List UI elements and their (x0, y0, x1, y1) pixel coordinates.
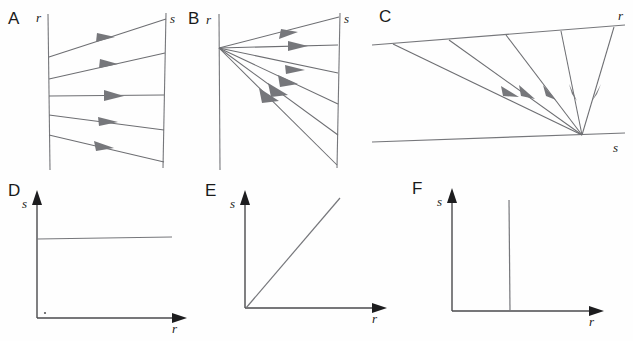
panel-e-letter: E (205, 181, 216, 200)
panel-a-letter: A (8, 9, 20, 28)
panel-b-ray-6 (219, 48, 337, 165)
panel-d-y-axis-arrowhead (32, 190, 42, 205)
panel-b-letter: B (188, 9, 199, 28)
panel-b: B r s (188, 9, 349, 170)
panel-f: F s r (412, 179, 604, 329)
panel-f-ylabel: s (437, 194, 442, 209)
panel-a-ray-4 (49, 115, 164, 130)
panel-c-ray-5 (582, 27, 614, 135)
panel-d-letter: D (8, 181, 20, 200)
panel-c-letter: C (379, 7, 391, 26)
panel-a-line-r (48, 14, 50, 170)
panel-e: E s r (205, 181, 387, 326)
panel-f-y-axis-arrowhead (447, 188, 457, 203)
panel-b-ray-1 (219, 17, 339, 48)
panel-a-ray-5 (49, 135, 164, 162)
panel-a-label-r: r (36, 10, 42, 25)
panel-b-line-s (337, 13, 340, 168)
panel-c-label-s: s (613, 140, 618, 155)
panel-c-ray-4 (561, 31, 582, 135)
scan-speck (44, 312, 46, 314)
panel-b-line-r (219, 14, 220, 170)
panel-a-line-s (163, 13, 166, 168)
panel-a: A r s (8, 9, 175, 170)
panel-c: C r s (372, 7, 625, 155)
panel-c-label-r: r (618, 8, 624, 23)
panel-c-line-s (372, 133, 625, 142)
panel-b-ray-5 (219, 48, 338, 135)
figure-container: A r s (0, 0, 633, 341)
panel-a-ray-1 (49, 19, 166, 57)
panel-e-ylabel: s (230, 196, 235, 211)
panel-a-ray-2 (49, 53, 165, 79)
panel-b-ray-2 (219, 41, 338, 51)
panel-c-ray-2 (449, 40, 582, 135)
panel-e-plot-line (246, 198, 340, 308)
panel-c-ray-3 (506, 35, 582, 135)
panel-e-y-axis-arrowhead (240, 190, 250, 205)
panel-a-ray-3 (49, 90, 164, 101)
panel-f-letter: F (412, 179, 422, 198)
panel-b-label-s: s (344, 11, 349, 26)
panel-b-label-r: r (206, 12, 212, 27)
panel-c-ray-1 (393, 44, 582, 135)
panel-d: D s r (8, 181, 187, 336)
panel-f-plot-line (509, 200, 510, 311)
panel-a-label-s: s (170, 11, 175, 26)
panel-c-line-r (372, 25, 625, 45)
panel-d-ylabel: s (22, 196, 27, 211)
panel-d-plot-line (37, 237, 172, 239)
panel-f-xlabel: r (589, 314, 595, 329)
panel-d-xlabel: r (172, 321, 178, 336)
panel-e-xlabel: r (372, 311, 378, 326)
